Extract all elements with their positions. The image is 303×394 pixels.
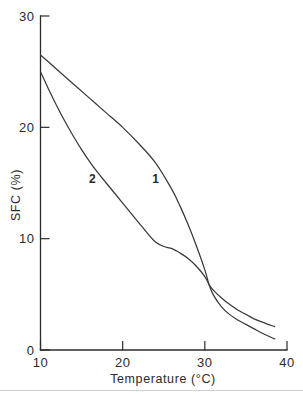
- curve-label-1: 1: [152, 172, 159, 186]
- x-tick-label-20: 20: [115, 355, 130, 370]
- x-axis-title: Temperature (°C): [110, 372, 216, 386]
- x-tick-label-10: 10: [33, 355, 48, 370]
- y-tick-label-10: 10: [19, 231, 34, 246]
- y-tick-label-30: 30: [19, 9, 34, 24]
- curves-group: [41, 55, 275, 339]
- y-axis-ticks: [41, 16, 50, 350]
- x-axis-tick-labels: 10203040: [33, 355, 295, 370]
- axes-group: [41, 16, 288, 350]
- x-tick-label-40: 40: [279, 355, 294, 370]
- y-tick-label-20: 20: [19, 120, 34, 135]
- data-curve-1: [41, 55, 275, 339]
- x-tick-label-30: 30: [197, 355, 212, 370]
- curve-label-2: 2: [89, 172, 96, 186]
- y-axis-title: SFC (%): [9, 169, 23, 221]
- x-axis-ticks: [41, 341, 288, 350]
- data-curve-2: [41, 72, 275, 327]
- sfc-temperature-chart: 0102030 10203040 12 Temperature (°C) SFC…: [0, 0, 303, 394]
- chart-svg: 0102030 10203040 12 Temperature (°C) SFC…: [0, 0, 303, 394]
